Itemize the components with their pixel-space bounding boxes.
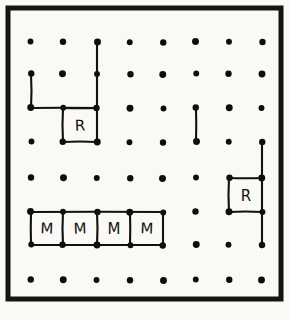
grid-dot (127, 71, 133, 77)
m-divider-col1 (63, 212, 64, 245)
grid-dot (29, 139, 35, 145)
grid-dot (193, 277, 199, 283)
grid-dot (28, 276, 34, 282)
grid-dot (259, 71, 266, 78)
grid-dot (127, 139, 133, 145)
grid-dot (161, 106, 167, 112)
grid-dot (226, 242, 232, 248)
cell-r-right: R (241, 187, 251, 205)
figure-canvas: RRMMMM (0, 0, 289, 320)
grid-dot (193, 241, 200, 248)
grid-dot (94, 175, 100, 181)
grid-dot (59, 70, 66, 77)
grid-dot (226, 39, 232, 45)
grid-dot (160, 39, 166, 45)
grid-dot (226, 139, 232, 145)
paper-background (0, 0, 289, 320)
grid-dot (226, 277, 232, 283)
grid-dot (193, 71, 199, 77)
grid-dot (159, 175, 166, 182)
grid-dot (225, 71, 231, 77)
grid-dot (127, 277, 133, 283)
grid-dot (259, 105, 265, 111)
grid-dot (193, 175, 199, 181)
r-left-cell-left (63, 108, 64, 142)
grid-dot (192, 208, 198, 214)
grid-dot (192, 38, 199, 45)
grid-dot (258, 277, 265, 284)
grid-dot (60, 276, 67, 283)
grid-dot (28, 39, 34, 45)
r-right-cell-left (229, 178, 230, 212)
cell-m-4: M (140, 219, 154, 237)
grid-dot (28, 174, 34, 180)
r-left-cell-bottom (63, 142, 97, 143)
grid-dot (160, 277, 167, 284)
grid-dot (259, 39, 265, 45)
grid-dot (127, 175, 133, 181)
grid-dot (159, 71, 166, 78)
grid-dot (127, 39, 133, 45)
grid-dot (160, 139, 166, 145)
grid-dot (60, 174, 67, 181)
cell-m-3: M (108, 220, 121, 238)
cell-m-1: M (40, 219, 54, 237)
grid-dot (127, 105, 134, 112)
dot-grid-figure: RRMMMM (0, 0, 289, 320)
cell-r-left: R (74, 116, 85, 134)
top-left-vertical-col0 (31, 74, 32, 108)
grid-dot (226, 104, 233, 111)
grid-dot (60, 39, 66, 45)
m-divider-col2 (97, 212, 98, 245)
cell-m-2: M (73, 219, 87, 237)
r-right-cell-bottom (229, 212, 262, 213)
grid-dot (94, 277, 100, 283)
